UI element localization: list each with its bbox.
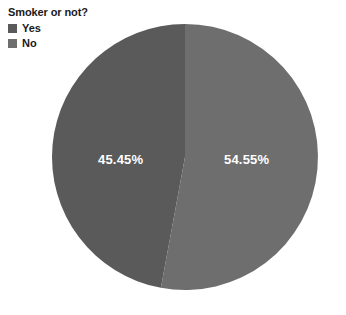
pie-chart-figure: 45.45% 54.55% Smoker or not? Yes No [0, 0, 346, 315]
legend-item-no[interactable]: No [8, 36, 88, 50]
pie-label-no: 54.55% [224, 152, 269, 167]
legend-title: Smoker or not? [8, 6, 88, 19]
legend-swatch-no [8, 39, 17, 48]
legend-item-label-yes: Yes [22, 22, 41, 34]
legend-item-label-no: No [22, 37, 37, 49]
legend-swatch-yes [8, 24, 17, 33]
pie-label-yes: 45.45% [98, 152, 143, 167]
legend-item-yes[interactable]: Yes [8, 21, 88, 35]
legend: Smoker or not? Yes No [8, 6, 88, 50]
